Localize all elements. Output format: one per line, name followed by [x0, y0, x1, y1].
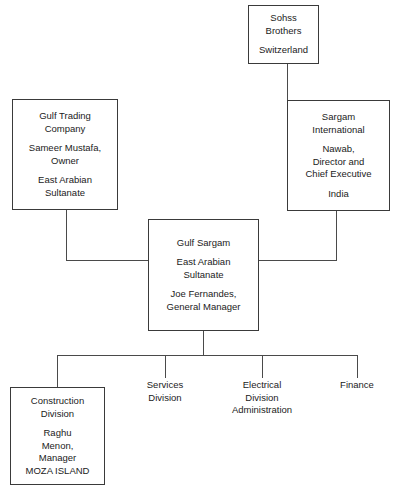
node-services-division[interactable]: Services Division [125, 379, 205, 404]
org-chart-canvas: Sohss Brothers Switzerland Gulf Trading … [0, 0, 399, 494]
node-finance[interactable]: Finance [317, 379, 397, 392]
sohss-brothers-location: Switzerland [259, 44, 308, 57]
node-construction-division[interactable]: Construction Division Raghu Menon, Manag… [10, 387, 105, 485]
sargam-person-line-3: Chief Executive [305, 168, 371, 181]
finance-label: Finance [317, 379, 397, 392]
connector-gulftrading-drop [66, 209, 67, 261]
node-gulf-trading-company[interactable]: Gulf Trading Company Sameer Mustafa, Own… [12, 99, 118, 210]
gulf-sargam-name: Gulf Sargam [177, 237, 230, 250]
gulf-sargam-person-line-2: General Manager [167, 301, 241, 314]
electrical-division-line-3: Administration [212, 404, 312, 417]
sargam-person-line-2: Director and [313, 156, 365, 169]
sargam-location: India [328, 188, 349, 201]
connector-drop-construction [57, 355, 58, 387]
connector-divisions-bus [57, 355, 358, 356]
gulf-trading-person-line-2: Owner [51, 155, 79, 168]
gulf-trading-location-line-1: East Arabian [38, 174, 92, 187]
connector-gulfsargam-drop [203, 330, 204, 356]
construction-person-line-2: Menon, [42, 440, 74, 453]
gulf-sargam-location-line-1: East Arabian [177, 256, 231, 269]
node-gulf-sargam[interactable]: Gulf Sargam East Arabian Sultanate Joe F… [148, 219, 259, 331]
gulf-trading-name-line-2: Company [45, 123, 86, 136]
sargam-name-line-2: International [312, 124, 364, 137]
connector-sargam-to-gulfsargam [258, 260, 337, 261]
construction-site-label: MOZA ISLAND [26, 465, 90, 478]
construction-name-line-2: Division [41, 408, 74, 421]
connector-drop-finance [357, 355, 358, 378]
construction-person-line-1: Raghu [44, 427, 72, 440]
services-division-line-1: Services [125, 379, 205, 392]
construction-person-line-3: Manager [39, 452, 77, 465]
gulf-sargam-person-line-1: Joe Fernandes, [170, 288, 236, 301]
sargam-name-line-1: Sargam [322, 111, 355, 124]
services-division-line-2: Division [125, 392, 205, 405]
connector-drop-services [165, 355, 166, 378]
node-sargam-international[interactable]: Sargam International Nawab, Director and… [287, 100, 390, 211]
connector-sargam-drop [336, 210, 337, 261]
connector-gulftrading-to-gulfsargam [66, 260, 149, 261]
electrical-division-line-1: Electrical [212, 379, 312, 392]
gulf-trading-name-line-1: Gulf Trading [39, 110, 91, 123]
sohss-brothers-name-line-1: Sohss [270, 12, 296, 25]
node-electrical-division[interactable]: Electrical Division Administration [212, 379, 312, 417]
gulf-sargam-location-line-2: Sultanate [183, 269, 223, 282]
electrical-division-line-2: Division [212, 392, 312, 405]
connector-sohss-to-sargam [287, 63, 288, 101]
sargam-person-line-1: Nawab, [322, 143, 354, 156]
node-sohss-brothers[interactable]: Sohss Brothers Switzerland [248, 5, 319, 64]
connector-drop-electrical [262, 355, 263, 378]
sohss-brothers-name-line-2: Brothers [266, 25, 302, 38]
gulf-trading-location-line-2: Sultanate [45, 187, 85, 200]
construction-name-line-1: Construction [31, 395, 84, 408]
gulf-trading-person-line-1: Sameer Mustafa, [29, 142, 101, 155]
